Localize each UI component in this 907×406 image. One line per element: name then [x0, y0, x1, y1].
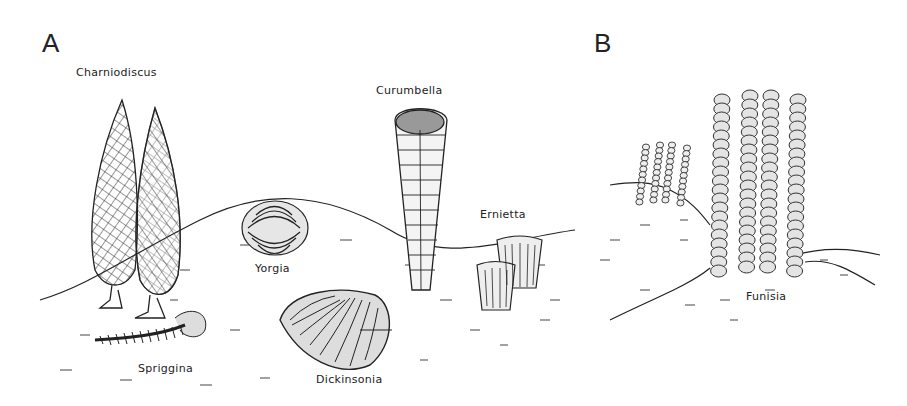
label-funisia: Funisia — [746, 290, 786, 303]
label-ernietta: Ernietta — [480, 208, 526, 221]
yorgia-drawing — [242, 201, 308, 255]
label-dickinsonia: Dickinsonia — [316, 373, 383, 386]
label-yorgia: Yorgia — [255, 262, 290, 275]
label-charniodiscus: Charniodiscus — [76, 66, 157, 79]
ernietta-drawing — [477, 236, 542, 310]
label-curumbella: Curumbella — [376, 84, 442, 97]
funisia-small-drawing — [636, 142, 691, 206]
illustration-canvas: (function(){ var ns='http://www.w3.org/2… — [0, 0, 907, 406]
label-spriggina: Spriggina — [138, 362, 193, 375]
dickinsonia-drawing — [280, 290, 392, 369]
funisia-large-drawing — [711, 90, 806, 277]
charniodiscus-drawing — [92, 100, 180, 318]
panel-letter-a: A — [42, 28, 59, 59]
panel-letter-b: B — [594, 28, 611, 59]
curumbella-drawing — [395, 109, 447, 290]
